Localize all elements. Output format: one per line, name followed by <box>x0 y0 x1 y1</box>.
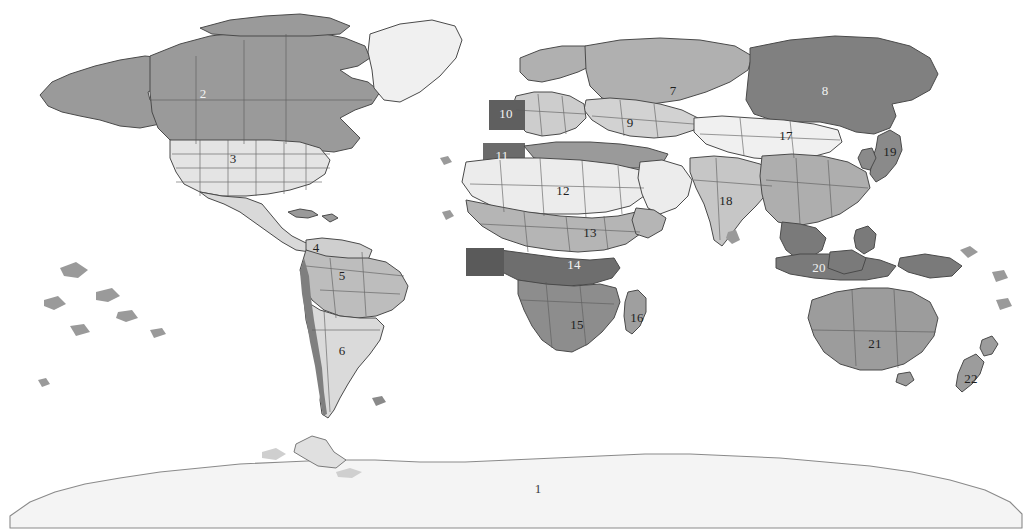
region-label-14[interactable]: 14 <box>567 258 580 271</box>
region-label-9[interactable]: 9 <box>627 116 634 129</box>
world-map-graphic <box>0 0 1030 532</box>
region-label-21[interactable]: 21 <box>868 337 881 350</box>
region-label-19[interactable]: 19 <box>883 145 896 158</box>
region-label-18[interactable]: 18 <box>719 194 732 207</box>
region-label-13[interactable]: 13 <box>583 226 596 239</box>
region-label-17[interactable]: 17 <box>779 129 792 142</box>
region-label-1[interactable]: 1 <box>535 482 542 495</box>
region-label-16[interactable]: 16 <box>630 311 643 324</box>
region-label-4[interactable]: 4 <box>313 241 320 254</box>
region-label-11[interactable]: 11 <box>496 149 509 162</box>
world-map: 1 2 3 4 5 6 7 8 9 10 11 12 13 14 15 16 1… <box>0 0 1030 532</box>
region-label-5[interactable]: 5 <box>339 269 346 282</box>
region-label-2[interactable]: 2 <box>200 87 207 100</box>
land-west-africa-block <box>466 248 504 276</box>
region-label-10[interactable]: 10 <box>499 107 512 120</box>
region-label-12[interactable]: 12 <box>556 184 569 197</box>
region-label-7[interactable]: 7 <box>670 84 677 97</box>
region-label-22[interactable]: 22 <box>964 372 977 385</box>
land-canada <box>150 30 380 152</box>
region-label-3[interactable]: 3 <box>230 152 237 165</box>
region-label-15[interactable]: 15 <box>570 318 583 331</box>
region-label-20[interactable]: 20 <box>812 261 825 274</box>
region-label-8[interactable]: 8 <box>822 84 829 97</box>
region-label-6[interactable]: 6 <box>339 344 346 357</box>
